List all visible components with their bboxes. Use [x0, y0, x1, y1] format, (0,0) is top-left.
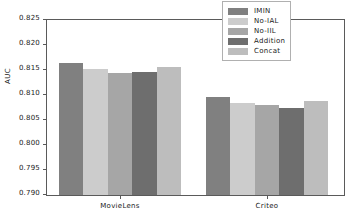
y-axis-tick-label: 0.810 [19, 89, 40, 97]
bar [59, 63, 83, 196]
legend-swatch [228, 28, 248, 35]
legend-label: IMIN [254, 7, 271, 15]
legend-item[interactable]: No-IIL [228, 26, 285, 36]
legend-swatch [228, 8, 248, 15]
legend-swatch [228, 48, 248, 55]
bar [132, 72, 156, 196]
x-axis-tick-mark [120, 196, 121, 199]
bar-chart-figure: AUC 0.8250.8200.8150.8100.8050.8000.7950… [0, 0, 360, 221]
legend-swatch [228, 18, 248, 25]
y-axis-tick-label: 0.795 [19, 164, 40, 172]
y-axis-label: AUC [4, 46, 12, 106]
y-axis-tick: 0.825 [0, 19, 46, 20]
bar [157, 67, 181, 196]
y-axis-tick: 0.815 [0, 69, 46, 70]
legend-item[interactable]: No-IAL [228, 16, 285, 26]
y-axis-tick-label: 0.820 [19, 39, 40, 47]
bar [83, 69, 107, 195]
x-axis-tick-label: MovieLens [100, 202, 140, 210]
legend-swatch [228, 38, 248, 45]
y-axis-tick-label: 0.825 [19, 14, 40, 22]
legend: IMINNo-IALNo-IILAdditionConcat [222, 1, 291, 61]
bar [108, 73, 132, 196]
legend-item[interactable]: Addition [228, 36, 285, 46]
bar [279, 108, 303, 196]
x-axis-tick-mark [267, 196, 268, 199]
y-axis-tick-label: 0.815 [19, 64, 40, 72]
x-axis-tick-label: Criteo [256, 202, 279, 210]
y-axis-tick-label: 0.800 [19, 139, 40, 147]
y-axis-tick-label: 0.805 [19, 114, 40, 122]
bar [206, 97, 230, 196]
y-axis-tick: 0.810 [0, 94, 46, 95]
y-axis-tick: 0.795 [0, 169, 46, 170]
bar [304, 101, 328, 195]
legend-label: No-IIL [254, 27, 276, 35]
bar [230, 103, 254, 196]
y-axis-tick: 0.805 [0, 119, 46, 120]
y-axis-tick: 0.800 [0, 144, 46, 145]
y-axis-tick: 0.820 [0, 44, 46, 45]
plot-area [46, 19, 345, 196]
bar [255, 105, 279, 195]
legend-label: Concat [254, 47, 280, 55]
legend-item[interactable]: IMIN [228, 6, 285, 16]
legend-item[interactable]: Concat [228, 46, 285, 56]
legend-label: No-IAL [254, 17, 279, 25]
y-axis-tick-label: 0.790 [19, 189, 40, 197]
y-axis-tick: 0.790 [0, 194, 46, 195]
legend-label: Addition [254, 37, 285, 45]
